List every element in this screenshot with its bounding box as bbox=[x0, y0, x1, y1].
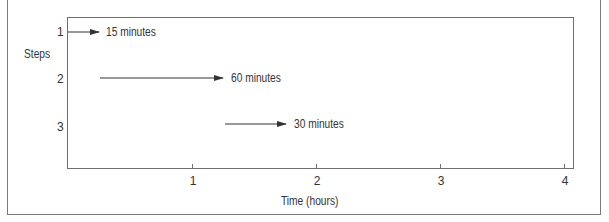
x-tick-mark-3 bbox=[440, 164, 441, 169]
x-tick-1: 1 bbox=[190, 175, 197, 187]
x-tick-3: 3 bbox=[438, 175, 445, 187]
x-tick-mark-2 bbox=[316, 164, 317, 169]
x-axis-title: Time (hours) bbox=[281, 195, 338, 207]
step-arrows bbox=[0, 0, 609, 222]
x-tick-mark-1 bbox=[192, 164, 193, 169]
step-3-duration-label: 30 minutes bbox=[294, 118, 344, 130]
x-tick-2: 2 bbox=[314, 175, 321, 187]
x-tick-4: 4 bbox=[562, 175, 569, 187]
step-2-duration-label: 60 minutes bbox=[231, 72, 281, 84]
x-tick-mark-4 bbox=[564, 164, 565, 169]
step-1-duration-label: 15 minutes bbox=[106, 26, 156, 38]
